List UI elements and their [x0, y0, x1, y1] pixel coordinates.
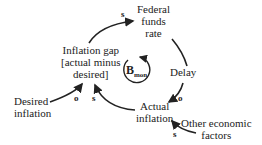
node-text: inflation	[136, 112, 173, 124]
node-delay: Delay	[170, 66, 196, 78]
node-other-economic-factors: Other economic factors	[181, 117, 252, 141]
link-gap-to-rate	[89, 21, 133, 43]
node-actual-inflation: Actual inflation	[136, 100, 173, 124]
loop-subscript: mon	[134, 71, 147, 79]
balancing-loop-label: Bmon	[126, 63, 147, 79]
node-text: Actual	[136, 100, 173, 112]
node-federal-funds-rate: Federal funds rate	[137, 3, 170, 39]
node-inflation-gap: Inflation gap [actual minus desired]	[61, 44, 121, 80]
polarity-other-to-actual: s	[173, 129, 177, 139]
polarity-desired-to-gap: o	[74, 93, 79, 103]
node-desired-inflation: Desired inflation	[14, 95, 51, 119]
loop-letter: B	[126, 63, 134, 77]
node-text: rate	[137, 27, 170, 39]
node-text: Inflation gap	[61, 44, 121, 56]
node-text: inflation	[14, 107, 51, 119]
polarity-rate-to-actual: o	[178, 93, 183, 103]
node-text: [actual minus	[61, 56, 121, 68]
node-text: desired]	[61, 68, 121, 80]
link-actual-to-gap	[95, 85, 135, 110]
polarity-actual-to-gap: s	[92, 93, 96, 103]
node-text: Desired	[14, 95, 51, 107]
node-text: Federal	[137, 3, 170, 15]
polarity-gap-to-rate: s	[121, 9, 125, 19]
node-text: funds	[137, 15, 170, 27]
node-text: factors	[181, 129, 252, 141]
link-rate-to-actual	[172, 39, 187, 66]
node-text: Other economic	[181, 117, 252, 129]
